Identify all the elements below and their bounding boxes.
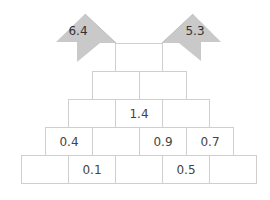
brick-r5-c2: 0.1 — [68, 155, 116, 184]
brick-r5-c3[interactable] — [115, 155, 163, 184]
brick-r3-c2: 1.4 — [115, 99, 163, 128]
brick-r5-c1[interactable] — [21, 155, 69, 184]
brick-r4-c2[interactable] — [92, 127, 140, 156]
left-flag-icon — [56, 14, 116, 62]
left-flag-value: 6.4 — [58, 24, 98, 38]
brick-r1-c1[interactable] — [115, 43, 163, 72]
brick-r5-c4: 0.5 — [162, 155, 210, 184]
brick-r2-c1[interactable] — [92, 71, 140, 100]
brick-r4-c3: 0.9 — [139, 127, 187, 156]
brick-r4-c4: 0.7 — [186, 127, 234, 156]
brick-r5-c5[interactable] — [209, 155, 257, 184]
brick-r2-c2[interactable] — [139, 71, 187, 100]
brick-r3-c3[interactable] — [162, 99, 210, 128]
right-flag-value: 5.3 — [175, 24, 215, 38]
brick-r3-c1[interactable] — [68, 99, 116, 128]
brick-r4-c1: 0.4 — [45, 127, 93, 156]
number-pyramid: 6.4 5.3 1.4 0.4 0.9 0.7 0.1 0.5 — [0, 0, 270, 200]
